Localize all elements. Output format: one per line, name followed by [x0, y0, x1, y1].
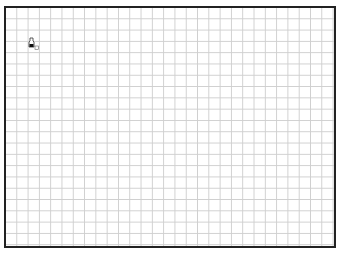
pen-cursor-icon: [27, 37, 41, 51]
drawing-canvas[interactable]: [4, 6, 336, 248]
